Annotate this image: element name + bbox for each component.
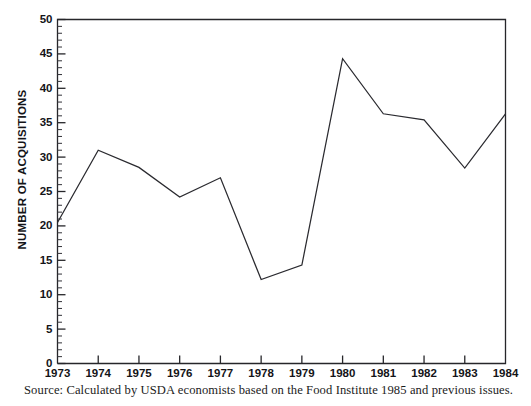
y-tick-label: 45 <box>40 47 53 59</box>
y-tick-label: 5 <box>46 323 53 335</box>
x-tick-label: 1980 <box>330 367 356 379</box>
figure-container: 05101520253035404550 1973197419751976197… <box>0 0 531 406</box>
x-tick-label: 1975 <box>126 367 152 379</box>
y-tick-label: 20 <box>40 219 53 231</box>
series-line-number-of-acquisitions <box>58 59 506 280</box>
plot-frame <box>58 20 506 364</box>
y-tick-label: 25 <box>40 185 53 197</box>
x-axis-tick-labels: 1973197419751976197719781979198019811982… <box>45 367 519 379</box>
x-tick-label: 1977 <box>208 367 234 379</box>
y-axis-title: NUMBER OF ACQUISITIONS <box>16 89 28 249</box>
y-tick-label: 30 <box>40 151 53 163</box>
x-tick-label: 1984 <box>493 367 519 379</box>
y-axis-tick-labels: 05101520253035404550 <box>40 13 53 369</box>
y-tick-label: 40 <box>40 82 53 94</box>
x-tick-label: 1973 <box>45 367 71 379</box>
x-tick-label: 1981 <box>371 367 397 379</box>
x-tick-label: 1978 <box>248 367 274 379</box>
data-series-group <box>58 59 506 280</box>
source-note: Source: Calculated by USDA economists ba… <box>24 383 524 398</box>
x-tick-label: 1976 <box>167 367 193 379</box>
x-tick-label: 1983 <box>452 367 478 379</box>
line-chart: 05101520253035404550 1973197419751976197… <box>0 0 531 406</box>
x-tick-label: 1979 <box>289 367 315 379</box>
y-tick-label: 35 <box>40 116 53 128</box>
y-axis-major-ticks <box>58 20 66 364</box>
x-axis-ticks <box>98 356 465 364</box>
x-tick-label: 1982 <box>411 367 437 379</box>
x-tick-label: 1974 <box>85 367 111 379</box>
y-tick-label: 15 <box>40 254 53 266</box>
y-tick-label: 10 <box>40 288 53 300</box>
y-tick-label: 50 <box>40 13 53 25</box>
y-axis-title-text: NUMBER OF ACQUISITIONS <box>16 89 28 249</box>
